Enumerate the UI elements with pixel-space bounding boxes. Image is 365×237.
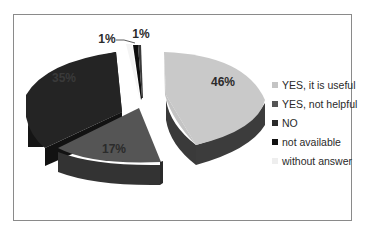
label-without-answer: 1% bbox=[98, 32, 116, 46]
legend-label: NO bbox=[282, 117, 298, 129]
label-not-available: 1% bbox=[132, 27, 150, 41]
label-yes-not-helpful: 17% bbox=[102, 142, 126, 156]
legend-swatch bbox=[272, 158, 278, 164]
legend-label: YES, not helpful bbox=[282, 98, 357, 110]
legend-swatch bbox=[272, 120, 278, 126]
legend-item-yes-not-helpful: YES, not helpful bbox=[272, 94, 357, 113]
legend-swatch bbox=[272, 139, 278, 145]
legend-item-yes-useful: YES, it is useful bbox=[272, 75, 357, 94]
legend-label: YES, it is useful bbox=[282, 79, 356, 91]
legend: YES, it is useful YES, not helpful NO no… bbox=[272, 75, 357, 170]
label-no: 35% bbox=[52, 71, 76, 85]
legend-label: without answer bbox=[282, 155, 352, 167]
legend-swatch bbox=[272, 82, 278, 88]
label-yes-useful: 46% bbox=[211, 75, 235, 89]
legend-item-without-answer: without answer bbox=[272, 151, 357, 170]
legend-item-no: NO bbox=[272, 113, 357, 132]
legend-item-not-available: not available bbox=[272, 132, 357, 151]
slice-yes-useful bbox=[164, 52, 265, 165]
legend-label: not available bbox=[282, 136, 341, 148]
legend-swatch bbox=[272, 101, 278, 107]
